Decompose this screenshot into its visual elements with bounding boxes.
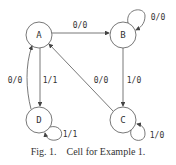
state-diagram: A B C D 0/0 0/0 1/0 1/0 0/0 1/1 — [0, 0, 176, 146]
transition-d-a: 0/0 — [8, 46, 32, 109]
state-a: A — [26, 22, 52, 48]
transition-a-d-label: 1/1 — [43, 76, 58, 85]
state-a-label: A — [36, 30, 42, 40]
transition-d-self-label: 1/1 — [63, 130, 78, 139]
state-c-label: C — [120, 115, 125, 125]
state-d: D — [26, 107, 52, 133]
state-c: C — [110, 107, 136, 133]
transition-b-c: 1/0 — [123, 48, 141, 106]
transition-b-self-label: 0/0 — [151, 13, 166, 22]
transition-a-b-label: 0/0 — [73, 21, 88, 30]
transition-b-c-label: 1/0 — [127, 76, 142, 85]
figure-caption: Fig. 1. Cell for Example 1. — [0, 146, 176, 157]
transition-d-a-label: 0/0 — [8, 76, 23, 85]
state-b-label: B — [120, 30, 125, 40]
transition-d-self: 1/1 — [45, 127, 77, 141]
state-b: B — [110, 22, 136, 48]
transition-a-b: 0/0 — [52, 21, 109, 33]
state-d-label: D — [36, 115, 41, 125]
figure-number: Fig. 1. — [31, 146, 57, 157]
transition-c-self-label: 1/0 — [150, 131, 165, 140]
transition-c-a-label: 0/0 — [94, 76, 109, 85]
transition-a-d: 1/1 — [40, 48, 57, 106]
figure-caption-text: Cell for Example 1. — [66, 146, 145, 157]
transition-c-a: 0/0 — [49, 44, 113, 111]
transition-c-self: 1/0 — [131, 124, 165, 140]
